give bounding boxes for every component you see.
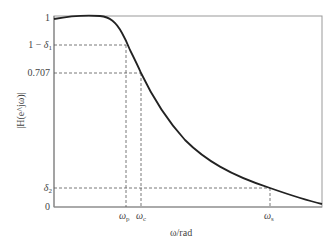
y-tick-passband-prefix: 1 − (28, 39, 44, 50)
chart-canvas (0, 0, 335, 244)
y-tick-1: 1 (30, 13, 50, 23)
magnitude-response-curve (54, 16, 322, 204)
x-tick-omega-s-symbol: ω (264, 210, 271, 221)
y-tick-stopband-sub: 2 (49, 187, 53, 195)
x-tick-omega-s: ωs (264, 211, 274, 224)
y-tick-0: 0 (30, 202, 50, 212)
y-tick-passband-sub: 1 (49, 44, 53, 52)
x-tick-omega-c: ωc (136, 211, 146, 224)
y-tick-stopband: δ2 (30, 183, 52, 196)
y-tick-passband: 1 − δ1 (8, 40, 52, 53)
y-tick-0707: 0.707 (10, 68, 50, 78)
x-tick-omega-c-sub: c (143, 215, 146, 223)
x-tick-omega-p: ωp (119, 211, 130, 224)
x-tick-omega-p-symbol: ω (119, 210, 126, 221)
x-tick-omega-p-sub: p (126, 215, 130, 223)
x-axis-title: ω/rad (170, 228, 192, 238)
x-tick-omega-c-symbol: ω (136, 210, 143, 221)
y-axis-title: |H(e^jω)| (15, 81, 26, 141)
x-tick-omega-s-sub: s (271, 215, 274, 223)
